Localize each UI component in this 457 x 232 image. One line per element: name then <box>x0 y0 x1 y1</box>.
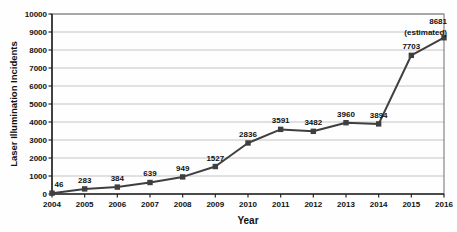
svg-text:2000: 2000 <box>29 154 47 163</box>
svg-text:4000: 4000 <box>29 118 47 127</box>
svg-text:0: 0 <box>43 190 48 199</box>
svg-text:46: 46 <box>55 180 64 189</box>
svg-text:1000: 1000 <box>29 172 47 181</box>
svg-text:2014: 2014 <box>370 200 388 209</box>
y-axis-title: Laser Illumination Incidents <box>8 41 19 167</box>
svg-text:7000: 7000 <box>29 64 47 73</box>
gridlines <box>52 14 444 176</box>
svg-text:2011: 2011 <box>272 200 290 209</box>
svg-text:2008: 2008 <box>174 200 192 209</box>
svg-text:283: 283 <box>78 176 92 185</box>
svg-text:10000: 10000 <box>25 10 48 19</box>
svg-text:3591: 3591 <box>272 116 290 125</box>
svg-text:2006: 2006 <box>108 200 126 209</box>
svg-text:2007: 2007 <box>141 200 159 209</box>
svg-text:2009: 2009 <box>206 200 224 209</box>
svg-text:5000: 5000 <box>29 100 47 109</box>
svg-text:9000: 9000 <box>29 28 47 37</box>
svg-text:3960: 3960 <box>337 110 355 119</box>
svg-text:2015: 2015 <box>402 200 420 209</box>
y-tick-labels: 0100020003000400050006000700080009000100… <box>25 10 48 199</box>
svg-text:6000: 6000 <box>29 82 47 91</box>
svg-text:7703: 7703 <box>402 42 420 51</box>
svg-text:2004: 2004 <box>43 200 61 209</box>
svg-text:2005: 2005 <box>76 200 94 209</box>
laser-incidents-line-chart: 0100020003000400050006000700080009000100… <box>0 0 457 232</box>
svg-text:2836: 2836 <box>239 130 257 139</box>
svg-text:384: 384 <box>111 174 125 183</box>
svg-text:(estimated): (estimated) <box>404 28 447 37</box>
svg-text:3000: 3000 <box>29 136 47 145</box>
chart-canvas: 0100020003000400050006000700080009000100… <box>0 0 457 232</box>
svg-text:949: 949 <box>176 164 190 173</box>
svg-text:3894: 3894 <box>370 111 388 120</box>
svg-text:2013: 2013 <box>337 200 355 209</box>
svg-text:2016: 2016 <box>435 200 453 209</box>
svg-text:2012: 2012 <box>304 200 322 209</box>
svg-text:3482: 3482 <box>304 118 322 127</box>
x-axis-title: Year <box>237 215 258 226</box>
svg-text:1527: 1527 <box>206 154 224 163</box>
svg-text:2010: 2010 <box>239 200 257 209</box>
svg-text:8000: 8000 <box>29 46 47 55</box>
x-tick-labels: 2004200520062007200820092010201120122013… <box>43 200 453 209</box>
svg-text:8681: 8681 <box>429 17 447 26</box>
svg-text:639: 639 <box>143 169 157 178</box>
